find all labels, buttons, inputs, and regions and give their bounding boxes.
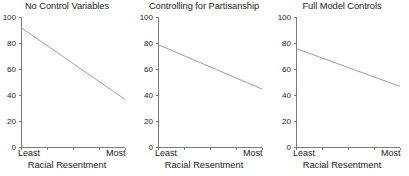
x-axis-title: Racial Resentment — [0, 160, 134, 171]
y-tick-label: 80 — [282, 39, 291, 48]
small-multiples-figure: No Control Variables 020406080100 Least … — [0, 0, 409, 176]
xtick-label-least: Least — [155, 148, 177, 158]
y-tick-label: 0 — [149, 143, 154, 152]
xtick-label-most: Most — [243, 148, 263, 158]
y-tick-label: 40 — [144, 91, 153, 100]
data-line-series — [159, 45, 263, 89]
x-axis-title: Racial Resentment — [275, 160, 409, 171]
x-axis-title: Racial Resentment — [137, 160, 271, 171]
xtick-label-most: Most — [106, 148, 126, 158]
y-tick-label: 100 — [3, 13, 17, 22]
y-tick-label: 40 — [7, 91, 16, 100]
y-tick-label: 60 — [282, 65, 291, 74]
y-tick-label: 0 — [12, 143, 17, 152]
y-tick-label: 60 — [7, 65, 16, 74]
y-tick-label: 60 — [144, 65, 153, 74]
y-tick-label: 80 — [144, 39, 153, 48]
xtick-label-least: Least — [18, 148, 40, 158]
xtick-label-most: Most — [381, 148, 401, 158]
y-tick-label: 100 — [278, 13, 292, 22]
y-tick-label: 80 — [7, 39, 16, 48]
y-tick-label: 100 — [140, 13, 154, 22]
data-line-series — [297, 49, 401, 87]
y-tick-label: 20 — [144, 117, 153, 126]
data-line-series — [22, 28, 126, 100]
y-tick-label: 0 — [287, 143, 292, 152]
chart-panel-full-model-controls: Full Model Controls 020406080100 Least M… — [275, 0, 409, 176]
y-tick-label: 20 — [282, 117, 291, 126]
chart-panel-controlling-for-partisanship: Controlling for Partisanship 02040608010… — [137, 0, 271, 176]
xtick-label-least: Least — [293, 148, 315, 158]
y-tick-label: 20 — [7, 117, 16, 126]
y-tick-label: 40 — [282, 91, 291, 100]
chart-panel-no-control-variables: No Control Variables 020406080100 Least … — [0, 0, 134, 176]
